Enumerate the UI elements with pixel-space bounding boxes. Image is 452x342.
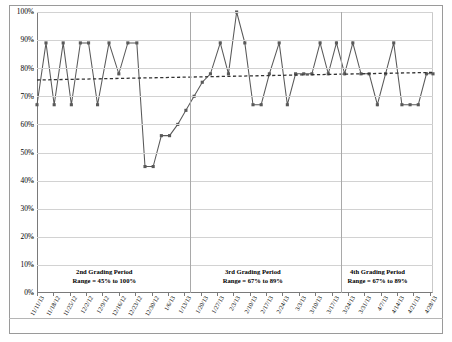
annotation-title: 4th Grading Period xyxy=(316,268,440,277)
x-axis-tick-label: 12/9/12 xyxy=(96,295,111,315)
x-axis-tick-label: 1/27/13 xyxy=(211,295,226,315)
y-axis-tick-label: 60% xyxy=(0,121,34,128)
gridline xyxy=(37,12,433,13)
data-point-marker xyxy=(278,41,281,44)
y-axis-tick-label: 30% xyxy=(0,205,34,212)
data-point-marker xyxy=(376,103,379,106)
x-axis-tick-label: 1/6/13 xyxy=(163,295,177,312)
y-axis-tick-mark xyxy=(31,153,34,154)
y-axis-tick-mark xyxy=(31,12,34,13)
data-point-marker xyxy=(409,103,412,106)
y-axis-tick-mark xyxy=(31,124,34,125)
gridline xyxy=(37,237,433,238)
data-point-marker xyxy=(227,72,230,75)
data-point-marker xyxy=(87,41,90,44)
y-axis-tick-mark xyxy=(31,181,34,182)
grading-period-annotation: 3rd Grading PeriodRange = 67% to 89% xyxy=(191,268,315,285)
gridline xyxy=(37,265,433,266)
data-point-marker xyxy=(143,165,146,168)
grading-period-divider xyxy=(341,12,342,293)
y-axis-tick-mark xyxy=(31,293,34,294)
y-axis-tick-label: 90% xyxy=(0,36,34,43)
x-axis-tick-label: 1/20/13 xyxy=(194,295,209,315)
y-axis: 100%90%80%70%60%50%40%30%20%10%0% xyxy=(0,12,34,293)
data-point-marker xyxy=(35,103,38,106)
annotation-range: Range = 67% to 89% xyxy=(316,277,440,286)
data-point-marker xyxy=(351,41,354,44)
data-point-marker xyxy=(79,41,82,44)
x-axis-tick-label: 3/31/13 xyxy=(358,295,373,315)
y-axis-tick-label: 70% xyxy=(0,93,34,100)
data-point-marker xyxy=(53,103,56,106)
y-axis-tick-label: 50% xyxy=(0,149,34,156)
y-axis-tick-label: 10% xyxy=(0,261,34,268)
data-line xyxy=(37,12,433,167)
trendline xyxy=(37,72,433,80)
x-axis-tick-label: 12/16/12 xyxy=(111,295,128,317)
data-point-marker xyxy=(260,103,263,106)
data-point-marker xyxy=(107,41,110,44)
x-axis-tick-label: 2/17/13 xyxy=(260,295,275,315)
data-point-marker xyxy=(286,103,289,106)
x-axis-tick-label: 3/17/13 xyxy=(325,295,340,315)
y-axis-tick-mark xyxy=(31,96,34,97)
x-axis-tick-label: 4/14/13 xyxy=(391,295,406,315)
x-axis-tick-label: 11/25/12 xyxy=(62,295,79,317)
data-point-marker xyxy=(62,41,65,44)
x-axis-tick-label: 3/24/13 xyxy=(341,295,356,315)
data-point-marker xyxy=(201,81,204,84)
gridline xyxy=(37,209,433,210)
x-axis-tick-label: 12/23/12 xyxy=(127,295,144,317)
data-point-marker xyxy=(117,72,120,75)
data-point-marker xyxy=(392,41,395,44)
y-axis-tick-mark xyxy=(31,40,34,41)
x-axis-tick-label: 11/18/12 xyxy=(45,295,62,317)
y-axis-tick-label: 40% xyxy=(0,177,34,184)
data-point-marker xyxy=(335,41,338,44)
y-axis-tick-mark xyxy=(31,265,34,266)
data-point-marker xyxy=(400,103,403,106)
x-axis-tick-label: 2/10/13 xyxy=(243,295,258,315)
x-axis-tick-label: 12/30/12 xyxy=(144,295,161,317)
y-axis-tick-mark xyxy=(31,68,34,69)
plot-area xyxy=(37,12,433,293)
y-axis-tick-mark xyxy=(31,237,34,238)
data-point-marker xyxy=(243,41,246,44)
data-point-marker xyxy=(184,109,187,112)
gridline xyxy=(37,153,433,154)
annotation-range: Range = 67% to 89% xyxy=(191,277,315,286)
y-axis-tick-label: 0% xyxy=(0,289,34,296)
x-axis-tick-label: 1/13/13 xyxy=(178,295,193,315)
y-axis-tick-label: 20% xyxy=(0,233,34,240)
gridline xyxy=(37,68,433,69)
x-axis-tick-label: 3/3/13 xyxy=(294,295,308,312)
grading-period-divider xyxy=(190,12,191,293)
x-axis-tick-label: 2/24/13 xyxy=(276,295,291,315)
gridline xyxy=(37,124,433,125)
data-point-marker xyxy=(126,41,129,44)
data-point-marker xyxy=(319,41,322,44)
y-axis-tick-label: 80% xyxy=(0,65,34,72)
gridline xyxy=(37,181,433,182)
x-axis-tick-label: 12/2/12 xyxy=(80,295,95,315)
data-point-marker xyxy=(152,165,155,168)
grading-period-annotation: 4th Grading PeriodRange = 67% to 89% xyxy=(316,268,440,285)
data-point-marker xyxy=(96,103,99,106)
gridline xyxy=(37,40,433,41)
data-point-marker xyxy=(417,103,420,106)
data-point-marker xyxy=(168,134,171,137)
data-point-marker xyxy=(251,103,254,106)
data-point-marker xyxy=(70,103,73,106)
annotation-range: Range = 45% to 100% xyxy=(42,277,166,286)
x-axis-tick-label: 2/3/13 xyxy=(228,295,242,312)
chart-screenshot: 100%90%80%70%60%50%40%30%20%10%0% 11/11/… xyxy=(0,0,452,342)
data-point-marker xyxy=(209,72,212,75)
data-point-marker xyxy=(135,41,138,44)
annotation-title: 3rd Grading Period xyxy=(191,268,315,277)
data-point-marker xyxy=(219,41,222,44)
y-axis-tick-label: 100% xyxy=(0,8,34,15)
grading-period-annotation: 2nd Grading PeriodRange = 45% to 100% xyxy=(42,268,166,285)
x-axis-tick-label: 3/10/13 xyxy=(309,295,324,315)
gridline xyxy=(37,96,433,97)
data-point-marker xyxy=(44,41,47,44)
